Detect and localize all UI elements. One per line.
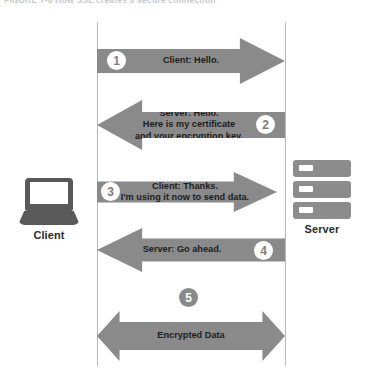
message-text-step-3: Client: Thanks. I'm using it now to send… — [97, 181, 277, 203]
step-badge-2-number: 2 — [262, 119, 269, 131]
step-badge-5-number: 5 — [185, 292, 192, 304]
step-badge-5: 5 — [179, 288, 198, 307]
server-node-label: Server — [279, 223, 365, 235]
step-badge-2: 2 — [256, 115, 275, 134]
laptop-icon — [18, 178, 80, 226]
step-badge-1-number: 1 — [113, 55, 120, 67]
client-node: Client — [6, 178, 92, 241]
client-node-label: Client — [6, 229, 92, 241]
step-badge-1: 1 — [107, 51, 126, 70]
server-rack-unit-1 — [293, 160, 351, 177]
ssl-handshake-diagram: Client Server Client: Hello. 1 Server: H… — [0, 0, 367, 380]
step-badge-3: 3 — [101, 182, 120, 201]
laptop-screen-icon — [25, 178, 73, 211]
step-badge-3-number: 3 — [107, 186, 114, 198]
laptop-base-icon — [18, 211, 80, 225]
step-badge-4-number: 4 — [260, 245, 267, 257]
message-arrow-step-5: Encrypted Data — [97, 311, 285, 361]
message-text-step-5: Encrypted Data — [97, 330, 285, 341]
server-rack-unit-3 — [293, 202, 351, 219]
server-node: Server — [279, 160, 365, 235]
step-badge-4: 4 — [254, 241, 273, 260]
server-rack-icon — [293, 160, 351, 219]
server-rack-unit-2 — [293, 181, 351, 198]
message-arrow-step-3: Client: Thanks. I'm using it now to send… — [97, 172, 277, 212]
